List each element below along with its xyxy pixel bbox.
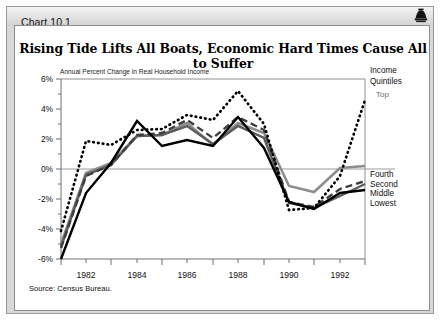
legend-title-line1: Income	[370, 66, 440, 77]
x-tick-label: 1990	[279, 270, 298, 280]
window-titlebar: Chart 10.1	[7, 7, 433, 26]
axes	[61, 79, 395, 259]
plot-area: 6% 4% 2% 0% -2% -4% -6%	[15, 26, 431, 312]
legend-item-lowest: Lowest	[370, 199, 440, 209]
legend-items-lower: Fourth Second Middle Lowest	[370, 170, 440, 208]
chart-card: Rising Tide Lifts All Boats, Economic Ha…	[14, 25, 430, 311]
x-tick-label: 1982	[76, 270, 95, 280]
x-tick-label: 1986	[177, 270, 196, 280]
bell-icon[interactable]	[414, 8, 428, 24]
y-axis-labels: 6% 4% 2% 0% -2% -4% -6%	[38, 74, 53, 264]
legend-item-middle: Middle	[370, 189, 440, 199]
legend-title-line2: Quintiles	[370, 77, 440, 88]
legend-item-top: Top	[376, 90, 389, 99]
y-tick-label: -2%	[38, 194, 53, 204]
y-tick-label: 0%	[41, 164, 54, 174]
y-tick-label: 6%	[41, 74, 54, 84]
legend-item-fourth: Fourth	[370, 170, 440, 180]
series-line-top	[61, 91, 365, 231]
y-tick-label: 4%	[41, 104, 54, 114]
x-tick-label: 1992	[330, 270, 349, 280]
x-axis-labels: 1982 1984 1986 1988 1990 1992	[76, 270, 349, 280]
x-tick-label: 1988	[228, 270, 247, 280]
series-lines	[61, 91, 365, 259]
series-line-second	[61, 117, 365, 248]
legend-title: Income Quintiles	[370, 66, 440, 87]
source-note: Source: Census Bureau.	[29, 284, 112, 293]
legend-item-second: Second	[370, 180, 440, 190]
y-tick-label: -4%	[38, 224, 53, 234]
y-tick-label: -6%	[38, 254, 53, 264]
x-tick-label: 1984	[127, 270, 146, 280]
x-axis-ticks	[61, 259, 365, 265]
series-line-fourth	[61, 123, 365, 244]
y-tick-label: 2%	[41, 134, 54, 144]
